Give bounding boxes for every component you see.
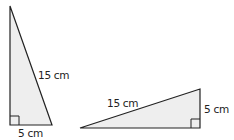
wide-hypotenuse-label: 15 cm xyxy=(107,97,138,109)
triangles-figure xyxy=(0,0,234,140)
tall-hypotenuse-label: 15 cm xyxy=(38,69,69,81)
tall-triangle xyxy=(10,6,52,125)
tall-base-label: 5 cm xyxy=(18,127,43,139)
wide-side-label: 5 cm xyxy=(204,103,229,115)
wide-triangle xyxy=(80,89,200,128)
